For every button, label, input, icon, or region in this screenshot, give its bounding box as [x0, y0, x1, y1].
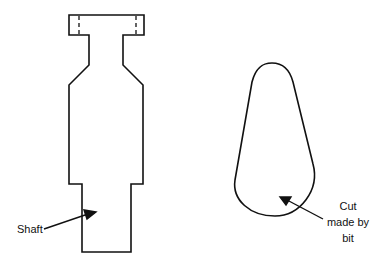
- cut-arrow: [280, 197, 323, 219]
- cut-label: Cut made by bit: [318, 198, 378, 246]
- cut-label-line-2: made by: [318, 214, 378, 230]
- cut-profile-outline: [235, 63, 315, 216]
- cut-label-line-1: Cut: [318, 198, 378, 214]
- shaft-arrow: [44, 210, 96, 229]
- cut-label-line-3: bit: [318, 230, 378, 246]
- shaft-label: Shaft: [17, 221, 43, 237]
